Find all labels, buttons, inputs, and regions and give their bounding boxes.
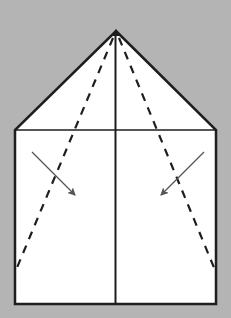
origami-diagram bbox=[0, 0, 231, 318]
